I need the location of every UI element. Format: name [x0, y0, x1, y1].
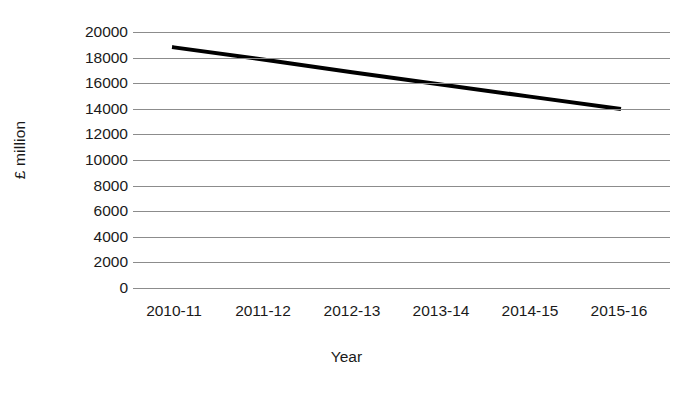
y-axis-tick-label: 6000: [44, 203, 128, 219]
gridline: [133, 32, 670, 33]
y-axis-tick-label: 18000: [44, 50, 128, 66]
y-axis-tick-label: 14000: [44, 101, 128, 117]
x-axis-tick-label: 2015-16: [564, 301, 674, 321]
plot-area: [133, 32, 670, 288]
x-axis-title: Year: [0, 348, 693, 366]
gridline: [133, 211, 670, 212]
x-axis-title-text: Year: [331, 348, 362, 365]
gridline: [133, 160, 670, 161]
y-axis-title-text: £ million: [11, 121, 29, 180]
y-axis-title: £ million: [0, 0, 40, 300]
gridline: [133, 237, 670, 238]
line-chart: £ million 200001800016000140001200010000…: [0, 0, 693, 394]
gridline: [133, 288, 670, 289]
gridline: [133, 109, 670, 110]
gridline: [133, 186, 670, 187]
y-axis-tick-label: 4000: [44, 229, 128, 245]
series-line-path: [174, 47, 619, 108]
y-axis-tick-label: 20000: [44, 24, 128, 40]
y-axis-tick-label: 10000: [44, 152, 128, 168]
y-axis-tick-label: 8000: [44, 178, 128, 194]
gridline: [133, 83, 670, 84]
gridline: [133, 134, 670, 135]
gridline: [133, 58, 670, 59]
y-axis-tick-labels: 2000018000160001400012000100008000600040…: [44, 0, 128, 394]
x-axis-tick-labels: 2010-112011-122012-132013-142014-152015-…: [0, 301, 693, 327]
y-axis-tick-label: 16000: [44, 75, 128, 91]
y-axis-tick-label: 2000: [44, 254, 128, 270]
y-axis-tick-label: 0: [44, 280, 128, 296]
y-axis-tick-label: 12000: [44, 126, 128, 142]
gridline: [133, 262, 670, 263]
